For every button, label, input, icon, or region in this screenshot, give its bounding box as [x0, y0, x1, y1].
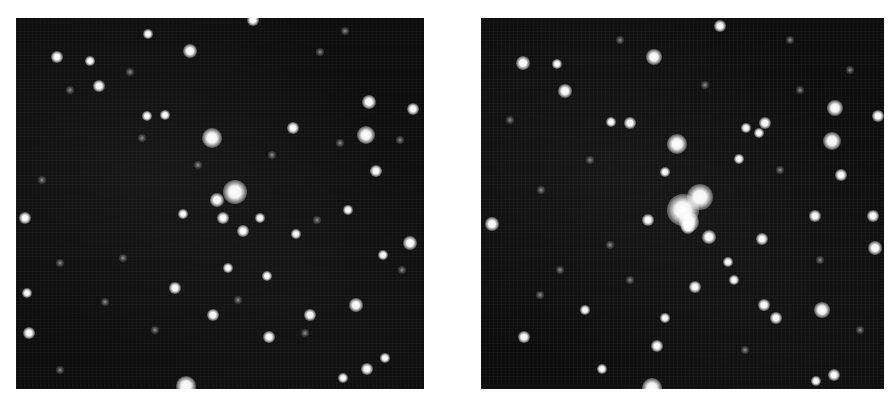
star: [223, 263, 233, 273]
star: [291, 229, 301, 239]
star: [646, 49, 662, 65]
star: [846, 66, 854, 74]
star: [38, 176, 46, 184]
star: [403, 236, 417, 250]
star: [681, 220, 695, 234]
star: [872, 110, 884, 122]
star: [313, 216, 321, 224]
star: [66, 86, 74, 94]
star-field-image-left: [16, 18, 424, 389]
star: [723, 257, 733, 267]
star: [126, 68, 134, 76]
star: [626, 276, 634, 284]
star: [828, 369, 840, 381]
star: [689, 281, 701, 293]
star: [169, 282, 181, 294]
star: [759, 117, 771, 129]
star: [357, 126, 375, 144]
star: [702, 230, 716, 244]
star: [101, 298, 109, 306]
star: [537, 186, 545, 194]
star: [741, 346, 749, 354]
star: [138, 134, 146, 142]
star: [729, 275, 739, 285]
star: [178, 209, 188, 219]
star: [624, 117, 636, 129]
star: [210, 193, 224, 207]
star: [754, 128, 764, 138]
star: [93, 80, 105, 92]
star: [701, 81, 709, 89]
star: [207, 309, 219, 321]
star: [606, 117, 616, 127]
star: [667, 134, 687, 154]
star: [827, 100, 843, 116]
star: [506, 116, 514, 124]
star: [616, 36, 624, 44]
star: [796, 86, 804, 94]
star: [651, 340, 663, 352]
star: [301, 329, 309, 337]
star: [223, 180, 247, 204]
star: [642, 378, 662, 389]
star: [770, 312, 782, 324]
star: [343, 205, 353, 215]
star: [758, 299, 770, 311]
star: [349, 298, 363, 312]
star: [741, 123, 751, 133]
star: [380, 353, 390, 363]
star: [263, 331, 275, 343]
star: [776, 166, 784, 174]
star: [268, 151, 276, 159]
star: [176, 376, 196, 389]
star: [586, 156, 594, 164]
star: [336, 139, 344, 147]
star: [856, 326, 864, 334]
star: [378, 250, 388, 260]
star: [597, 364, 607, 374]
star: [160, 110, 170, 120]
star: [660, 167, 670, 177]
star: [580, 305, 590, 315]
star: [370, 165, 382, 177]
star: [660, 313, 670, 323]
star: [22, 288, 32, 298]
star: [687, 184, 713, 210]
star: [867, 210, 879, 222]
star: [287, 122, 299, 134]
star: [183, 44, 197, 58]
star: [816, 256, 824, 264]
star: [811, 376, 821, 386]
star: [142, 111, 152, 121]
star: [85, 56, 95, 66]
star-field-image-right: [481, 18, 884, 389]
star: [756, 233, 768, 245]
star: [341, 27, 349, 35]
star: [143, 29, 153, 39]
star: [56, 366, 64, 374]
star: [247, 18, 259, 26]
star: [485, 217, 499, 231]
star: [23, 327, 35, 339]
star: [814, 302, 830, 318]
star: [51, 51, 63, 63]
star: [558, 84, 572, 98]
star: [809, 210, 821, 222]
star: [868, 241, 882, 255]
star: [398, 266, 406, 274]
star: [202, 128, 222, 148]
star: [338, 373, 348, 383]
star: [396, 136, 404, 144]
star: [407, 103, 419, 115]
star: [234, 296, 242, 304]
star: [823, 132, 841, 150]
star: [536, 291, 544, 299]
star: [734, 154, 744, 164]
star: [194, 161, 202, 169]
star: [518, 331, 530, 343]
star: [714, 20, 726, 32]
star: [119, 254, 127, 262]
star: [786, 36, 794, 44]
star: [151, 326, 159, 334]
star: [361, 363, 373, 375]
